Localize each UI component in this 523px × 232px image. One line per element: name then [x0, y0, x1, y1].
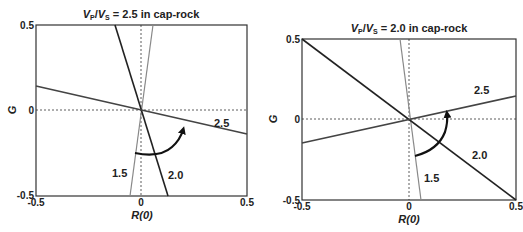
chart-left-title: VP/VS = 2.5 in cap-rock: [83, 8, 201, 21]
figure: VP/VS = 2.5 in cap-rock 1.5 2.0 2.5 0.5 …: [0, 0, 523, 232]
series-label-1-5: 1.5: [112, 167, 127, 179]
y-tick-zero: 0: [294, 114, 300, 125]
y-tick-top: 0.5: [20, 20, 34, 31]
curved-arrow-icon: [415, 114, 447, 156]
y-axis-label: G: [267, 114, 279, 123]
x-tick-zero: 0: [138, 197, 144, 208]
series-label-2-5: 2.5: [214, 117, 229, 129]
x-tick-right: 0.5: [240, 197, 254, 208]
chart-right-title: VP/VS = 2.0 in cap-rock: [351, 22, 469, 35]
series-label-2-5: 2.5: [474, 84, 489, 96]
x-tick-zero: 0: [406, 201, 412, 212]
x-axis-label: R(0): [131, 209, 153, 221]
x-axis-label: R(0): [398, 213, 420, 225]
y-tick-zero: 0: [28, 105, 34, 116]
y-tick-top: 0.5: [286, 34, 300, 45]
chart-left: VP/VS = 2.5 in cap-rock 1.5 2.0 2.5 0.5 …: [6, 8, 254, 221]
chart-right: VP/VS = 2.0 in cap-rock 1.5 2.0 2.5 0.5 …: [267, 22, 523, 225]
x-tick-left: -0.5: [293, 201, 311, 212]
x-tick-right: 0.5: [509, 201, 523, 212]
series-label-1-5: 1.5: [424, 172, 439, 184]
series-label-2-0: 2.0: [168, 169, 183, 181]
x-tick-left: -0.5: [27, 197, 45, 208]
series-label-2-0: 2.0: [472, 149, 487, 161]
curved-arrow-icon: [135, 130, 183, 155]
y-axis-label: G: [6, 105, 18, 114]
